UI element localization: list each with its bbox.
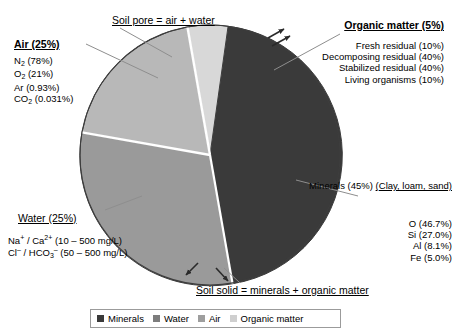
legend-label-water: Water <box>164 313 189 324</box>
legend-label-organic-matter: Organic matter <box>241 313 304 324</box>
callout-soil-solid: Soil solid = minerals + organic matter <box>196 284 369 296</box>
legend-label-air: Air <box>209 313 221 324</box>
legend-swatch-minerals <box>97 315 104 322</box>
organic-component-fresh: Fresh residual (10%) <box>322 40 444 51</box>
mineral-component-o: O (46.7%) <box>408 218 452 229</box>
mineral-component-al: Al (8.1%) <box>408 240 452 251</box>
callout-minerals-heading: Minerals (45%) (Clay, loam, sand) <box>309 180 452 191</box>
soil-composition-figure: Soil pore = air + water Air (25%) N2 (78… <box>0 0 458 335</box>
mineral-component-fe: Fe (5.0%) <box>408 252 452 263</box>
callout-organic-matter-heading: Organic matter (5%) <box>344 19 444 31</box>
minerals-composition-list: O (46.7%) Si (27.0%) Al (8.1%) Fe (5.0%) <box>408 218 452 263</box>
air-component-o2: O2 (21%) <box>14 68 73 81</box>
legend-swatch-water <box>153 315 160 322</box>
air-component-ar: Ar (0.93%) <box>14 82 73 93</box>
air-component-co2: CO2 (0.031%) <box>14 93 73 106</box>
minerals-heading-line1: Minerals (45%) <box>309 180 373 191</box>
organic-component-decomposing: Decomposing residual (40%) <box>322 51 444 62</box>
callout-water-heading: Water (25%) <box>18 212 77 224</box>
legend-item-organic-matter[interactable]: Organic matter <box>230 313 304 324</box>
legend-item-minerals[interactable]: Minerals <box>97 313 144 324</box>
legend-swatch-air <box>198 315 205 322</box>
legend-label-minerals: Minerals <box>108 313 144 324</box>
legend-item-air[interactable]: Air <box>198 313 221 324</box>
organic-matter-composition-list: Fresh residual (10%) Decomposing residua… <box>322 40 444 85</box>
water-component-cations: Na+ / Ca2+ (10 – 500 mg/L) <box>8 234 127 246</box>
minerals-heading-line2: (Clay, loam, sand) <box>376 180 452 191</box>
organic-component-stabilized: Stabilized residual (40%) <box>322 62 444 73</box>
chart-legend: Minerals Water Air Organic matter <box>90 309 341 328</box>
legend-swatch-organic-matter <box>230 315 237 322</box>
callout-soil-pore: Soil pore = air + water <box>112 14 215 26</box>
water-composition-list: Na+ / Ca2+ (10 – 500 mg/L) Cl– / HCO3– (… <box>8 234 127 260</box>
callout-air-heading: Air (25%) <box>14 38 60 50</box>
organic-component-living: Living organisms (10%) <box>322 74 444 85</box>
legend-item-water[interactable]: Water <box>153 313 189 324</box>
arrow-soil-pore-boundary <box>268 29 284 38</box>
water-component-anions: Cl– / HCO3– (50 – 500 mg/L) <box>8 246 127 260</box>
mineral-component-si: Si (27.0%) <box>408 229 452 240</box>
air-composition-list: N2 (78%) O2 (21%) Ar (0.93%) CO2 (0.031%… <box>14 55 73 106</box>
air-component-n2: N2 (78%) <box>14 55 73 68</box>
